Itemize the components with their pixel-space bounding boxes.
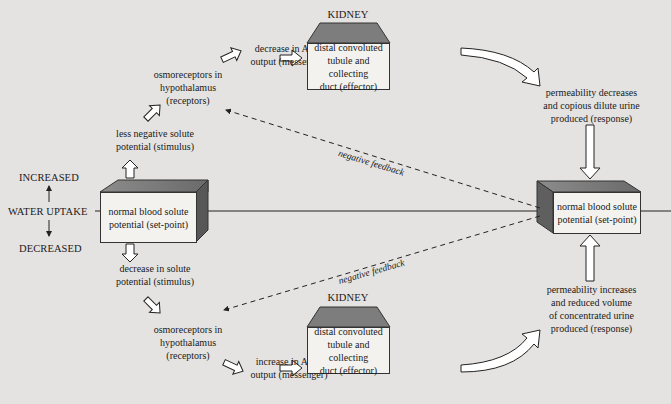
left-setpoint-line1: normal blood solute <box>109 205 189 218</box>
negative-feedback-top-line <box>226 110 540 208</box>
block-arrow-to-messenger-top-icon <box>219 44 244 66</box>
block-arrow-response-down-icon <box>580 125 600 179</box>
right-setpoint-box: normal blood solute potential (set-point… <box>553 192 641 234</box>
left-setpoint-box: normal blood solute potential (set-point… <box>100 192 197 243</box>
bottom-kidney-label: KIDNEY <box>318 291 378 304</box>
top-effector-box: distal convoluted tubule and collecting … <box>307 43 390 90</box>
block-arrow-up-icon <box>122 160 138 178</box>
top-receptor-label: osmoreceptors in hypothalamus (receptors… <box>143 68 233 107</box>
left-setpoint-line2: potential (set-point) <box>109 218 189 231</box>
curved-arrow-bottom-icon <box>461 330 540 372</box>
block-arrow-diag-down-icon <box>141 294 165 318</box>
bottom-effector-box: distal convoluted tubule and collecting … <box>307 327 390 374</box>
increased-label: INCREASED <box>19 171 79 184</box>
curved-arrow-top-icon <box>461 48 540 86</box>
right-setpoint-line1: normal blood solute <box>557 200 637 213</box>
top-stimulus-label: less negative solute potential (stimulus… <box>100 127 210 153</box>
water-uptake-label: WATER UPTAKE <box>8 205 87 218</box>
block-arrow-down-icon <box>122 244 138 262</box>
bottom-receptor-label: osmoreceptors in hypothalamus (receptors… <box>143 323 233 362</box>
bottom-stimulus-label: decrease in solute potential (stimulus) <box>100 262 210 288</box>
right-setpoint-line2: potential (set-point) <box>557 213 637 226</box>
top-response-label: permeability decreases and copious dilut… <box>534 86 649 125</box>
decreased-label: DECREASED <box>19 242 82 255</box>
top-kidney-label: KIDNEY <box>318 8 378 21</box>
block-arrow-response-up-icon <box>580 235 600 281</box>
bottom-response-label: permeability increases and reduced volum… <box>534 283 649 335</box>
